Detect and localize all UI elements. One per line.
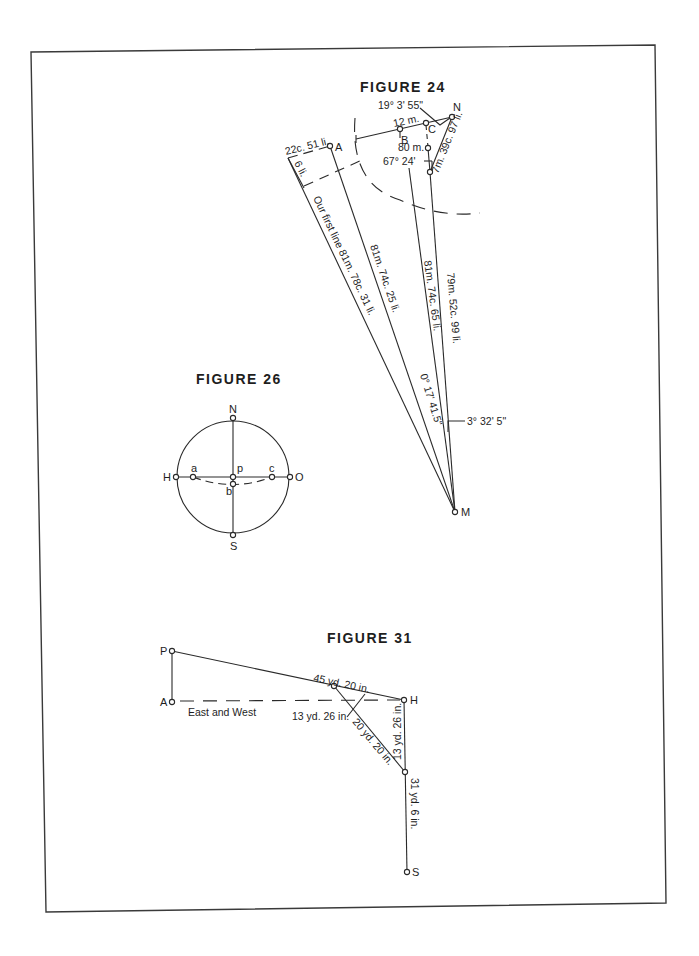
point-p: [169, 648, 174, 653]
point-a: [169, 699, 174, 704]
label-perp: 13 yd. 26 in.: [292, 710, 349, 722]
label-first-line: Our first line 81m. 78c. 31 li.: [311, 194, 378, 317]
label-angle-top: 19° 3' 55": [378, 99, 423, 111]
label-a-offset: 22c. 51 li.: [284, 134, 331, 157]
label-a-perp: 6 li.: [292, 158, 310, 178]
point-p: [230, 474, 235, 479]
label-12m: 12 m.: [392, 112, 420, 129]
label-east-west: East and West: [188, 706, 256, 718]
line-hs: [404, 700, 407, 872]
figure-26: FIGURE 26 N S H O a p c b: [163, 371, 304, 552]
label-b: b: [226, 485, 232, 497]
point-80m: [425, 145, 430, 150]
point-n: [230, 415, 235, 420]
angle-m-leader: [448, 421, 465, 432]
label-angle-small: 0° 17' 41.5": [418, 372, 445, 427]
page-frame: [31, 45, 666, 912]
point-m: [452, 509, 457, 514]
label-s: S: [230, 540, 237, 552]
east-west-dashed: [180, 700, 400, 701]
first-line: [288, 158, 455, 512]
diagram-page: FIGURE 24: [0, 0, 699, 956]
label-c: C: [428, 123, 436, 135]
label-p: p: [237, 462, 243, 474]
label-lower: 31 yd. 6 in.: [409, 778, 421, 829]
figure-24-title: FIGURE 24: [360, 79, 446, 95]
label-n: N: [229, 403, 237, 415]
point-a: [190, 474, 195, 479]
label-m: M: [461, 506, 470, 518]
point-o: [287, 474, 292, 479]
point-junction: [402, 769, 407, 774]
label-h: H: [163, 471, 171, 483]
label-s: S: [412, 866, 419, 878]
label-80m: 80 m.: [398, 141, 424, 153]
label-line-n: 79m. 52c. 99 li.: [445, 272, 463, 344]
point-h: [173, 474, 178, 479]
label-angle-mid: 67° 24': [383, 155, 415, 167]
figure-31-title: FIGURE 31: [327, 630, 413, 646]
point-h: [401, 697, 406, 702]
label-ph-dist: 45 yd. 20 in.: [313, 671, 371, 695]
dashed-arc: [355, 118, 480, 214]
figure-24: FIGURE 24: [284, 79, 507, 518]
label-o: O: [295, 471, 304, 483]
label-a: A: [335, 141, 343, 153]
figure-26-title: FIGURE 26: [196, 371, 282, 387]
label-line-b: 81m. 74c. 65 li.: [422, 260, 444, 332]
line-ph: [172, 651, 404, 700]
label-diag: 20 yd. 20 in.: [350, 716, 396, 768]
a-perp-dash: [304, 160, 362, 186]
label-h-down: 13 yd. 26 in.: [391, 703, 403, 760]
point-c: [269, 474, 274, 479]
line-b-m: [409, 168, 455, 512]
point-s: [230, 532, 235, 537]
label-c: c: [269, 462, 275, 474]
point-s: [404, 869, 409, 874]
label-h: H: [410, 694, 418, 706]
label-angle-m: 3° 32' 5": [467, 415, 506, 427]
label-a: A: [160, 696, 168, 708]
label-a: a: [191, 462, 198, 474]
figure-31: FIGURE 31 P A H S East and West 45 yd. 2…: [160, 630, 421, 878]
label-p: P: [160, 645, 167, 657]
